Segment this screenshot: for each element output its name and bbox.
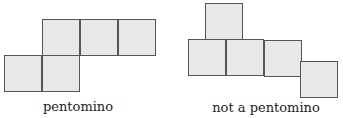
label-not-a-pentomino: not a pentomino [212,101,320,115]
unit-square [300,61,338,98]
unit-square [42,19,80,56]
unit-square [205,3,243,40]
unit-square [118,19,156,56]
unit-square [264,40,302,77]
unit-square [4,55,42,92]
label-pentomino: pentomino [43,100,113,114]
unit-square [42,55,80,92]
unit-square [226,39,264,76]
pentomino-diagram: pentomino not a pentomino [0,0,343,118]
unit-square [188,39,226,76]
unit-square [80,19,118,56]
